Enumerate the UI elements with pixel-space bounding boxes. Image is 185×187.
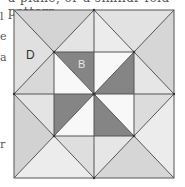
quilt-square-diagram: D B <box>0 0 185 187</box>
label-d: D <box>26 48 35 62</box>
label-b: B <box>78 58 85 70</box>
